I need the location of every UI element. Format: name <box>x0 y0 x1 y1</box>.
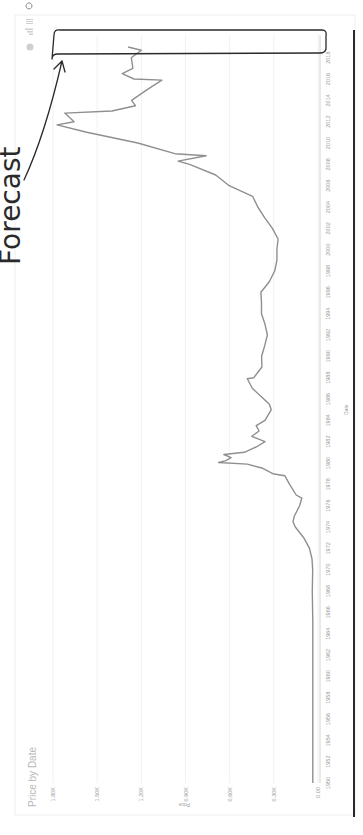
y-axis-ticks: 0.000.30K0.60K0.90K1.20K1.50K1.80K <box>50 787 321 802</box>
x-tick-label: 1990 <box>325 350 331 362</box>
x-tick-label: 1960 <box>325 670 331 682</box>
x-tick-label: 1978 <box>325 478 331 490</box>
y-tick-label: 1.80K <box>50 787 56 802</box>
x-tick-label: 2000 <box>325 244 331 256</box>
x-tick-label: 2016 <box>325 73 331 85</box>
rotated-chart-stage: Price by Date 0.000.30K0.60K0.90K1.20K1.… <box>0 0 363 835</box>
chart-title: Price by Date <box>27 747 38 807</box>
y-tick-label: 1.20K <box>138 787 144 802</box>
x-tick-label: 1970 <box>325 564 331 576</box>
x-tick-label: 1974 <box>325 521 331 533</box>
forecast-annotation: Forecast <box>0 30 326 265</box>
x-tick-label: 1954 <box>325 734 331 746</box>
x-tick-label: 2004 <box>325 201 331 213</box>
x-tick-label: 1984 <box>325 414 331 426</box>
y-axis-title: Price <box>178 802 190 808</box>
refresh-icon[interactable] <box>26 3 32 9</box>
x-tick-label: 1952 <box>325 756 331 768</box>
price-by-date-chart: Price by Date 0.000.30K0.60K0.90K1.20K1.… <box>0 0 363 835</box>
y-tick-label: 0.30K <box>271 787 277 802</box>
x-tick-label: 1980 <box>325 457 331 469</box>
x-tick-label: 2002 <box>325 222 331 234</box>
x-tick-label: 2010 <box>325 137 331 149</box>
hamburger-menu-icon[interactable] <box>26 19 33 24</box>
forecast-arrow <box>24 61 65 180</box>
x-tick-label: 2018 <box>325 52 331 64</box>
x-tick-label: 1958 <box>325 692 331 704</box>
forecast-label: Forecast <box>0 146 27 265</box>
x-tick-label: 1998 <box>325 265 331 277</box>
x-tick-label: 1986 <box>325 393 331 405</box>
x-tick-label: 1968 <box>325 585 331 597</box>
x-tick-label: 2006 <box>325 180 331 192</box>
x-tick-label: 1950 <box>325 777 331 789</box>
y-tick-label: 0.90K <box>183 787 189 802</box>
price-series-line <box>57 47 313 783</box>
y-tick-label: 0.00 <box>315 787 321 798</box>
x-tick-label: 1964 <box>325 628 331 640</box>
forecast-box <box>52 30 326 59</box>
x-tick-label: 1972 <box>325 542 331 554</box>
x-tick-label: 1976 <box>325 500 331 512</box>
x-tick-label: 1962 <box>325 649 331 661</box>
y-tick-label: 0.60K <box>227 787 233 802</box>
grid-lines <box>53 35 318 783</box>
page-edge-line <box>353 30 355 817</box>
x-tick-label: 1996 <box>325 286 331 298</box>
x-tick-label: 1966 <box>325 606 331 618</box>
y-tick-label: 1.50K <box>94 787 100 802</box>
x-axis-title: Date <box>343 404 349 415</box>
x-axis-ticks: 1950195219541956195819601962196419661968… <box>325 52 331 790</box>
x-tick-label: 1992 <box>325 329 331 341</box>
circle-icon[interactable] <box>27 44 34 51</box>
x-tick-label: 2012 <box>325 116 331 128</box>
x-tick-label: 1956 <box>325 713 331 725</box>
x-tick-label: 1988 <box>325 372 331 384</box>
bar-chart-icon[interactable] <box>25 29 33 36</box>
x-tick-label: 1982 <box>325 436 331 448</box>
x-tick-label: 2008 <box>325 158 331 170</box>
x-tick-label: 2014 <box>325 94 331 106</box>
chart-toolbar <box>25 3 34 51</box>
x-tick-label: 1994 <box>325 308 331 320</box>
